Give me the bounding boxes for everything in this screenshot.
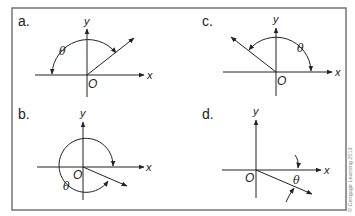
panel-c-x-label: x	[334, 66, 341, 78]
panel-b-x-label: x	[145, 161, 152, 173]
panel-b-origin-label: O	[73, 168, 82, 182]
panel-c-y-label: y	[272, 13, 280, 25]
panel-d-ray	[256, 170, 312, 194]
panel-c-ray	[231, 37, 276, 72]
panel-d-theta-label: θ	[293, 174, 300, 187]
panel-d-origin-label: O	[245, 171, 254, 185]
panel-b: b. x y θ O	[18, 106, 152, 200]
panel-b-label: b.	[18, 106, 30, 122]
panel-a-origin-label: O	[88, 77, 97, 91]
panel-b-theta-label: θ	[63, 180, 70, 193]
panel-a-label: a.	[18, 13, 30, 29]
panel-a: a. x y θ O	[18, 13, 153, 97]
panel-c-label: c.	[202, 13, 213, 29]
panel-d-x-label: x	[323, 164, 330, 176]
panel-d-y-label: y	[252, 105, 260, 117]
panel-b-y-label: y	[79, 107, 87, 119]
panel-d: d. x y θ O	[202, 105, 330, 202]
panel-a-ray	[87, 38, 134, 75]
panel-c-origin-label: O	[277, 74, 286, 88]
panel-a-y-label: y	[83, 15, 91, 27]
panel-c-theta-label: θ	[297, 42, 304, 55]
panel-d-upper-arrow	[295, 155, 298, 168]
panel-a-x-label: x	[146, 69, 153, 81]
panel-a-theta-label: θ	[59, 45, 66, 58]
copyright-text: © Cengage Learning 2013	[347, 147, 353, 212]
panel-d-label: d.	[202, 106, 214, 122]
panel-b-ray	[83, 167, 127, 186]
panel-c: c. x y θ O	[202, 13, 341, 96]
angle-diagram-figure: a. x y θ O c. x y θ O b. x y θ O d. x	[0, 0, 355, 216]
panel-d-lower-arrow	[286, 188, 294, 202]
